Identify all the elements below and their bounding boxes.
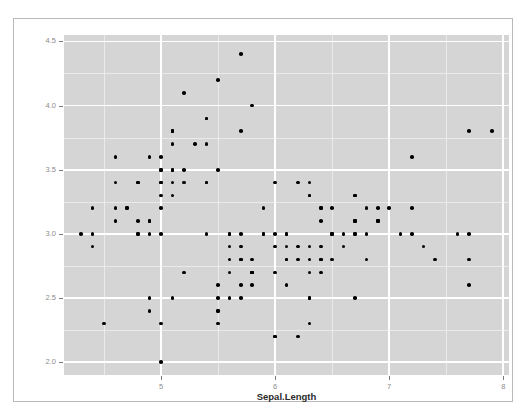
data-point: [159, 181, 163, 185]
data-point: [250, 104, 254, 108]
y-tick-mark: [59, 170, 63, 171]
data-point: [216, 309, 220, 313]
gridline-minor-horizontal: [64, 330, 509, 331]
data-point: [319, 258, 323, 262]
data-point: [182, 271, 186, 275]
gridline-major-horizontal: [64, 105, 509, 107]
data-point: [308, 322, 312, 326]
x-tick-label: 8: [483, 382, 523, 391]
x-tick-mark: [503, 376, 504, 380]
data-point: [250, 258, 254, 262]
data-point: [433, 258, 437, 262]
data-point: [285, 245, 289, 249]
data-point: [228, 245, 232, 249]
data-point: [182, 91, 186, 95]
data-point: [171, 181, 175, 185]
data-point: [365, 206, 369, 210]
x-tick-mark: [389, 376, 390, 380]
data-point: [148, 155, 152, 159]
data-point: [216, 296, 220, 300]
data-point: [205, 117, 209, 121]
y-tick-label: 3.0: [18, 229, 56, 238]
data-point: [296, 258, 300, 262]
data-point: [114, 155, 118, 159]
data-point: [239, 232, 243, 236]
data-point: [296, 335, 300, 339]
data-point: [467, 283, 471, 287]
y-tick-label: 2.0: [18, 357, 56, 366]
data-point: [171, 296, 175, 300]
data-point: [399, 232, 403, 236]
gridline-minor-horizontal: [64, 73, 509, 74]
data-point: [273, 181, 277, 185]
data-point: [273, 335, 277, 339]
data-point: [216, 322, 220, 326]
data-point: [91, 245, 95, 249]
gridline-minor-horizontal: [64, 266, 509, 267]
data-point: [114, 219, 118, 223]
plot-panel: [64, 35, 509, 375]
data-point: [410, 155, 414, 159]
data-point: [308, 258, 312, 262]
data-point: [159, 360, 163, 364]
data-point: [239, 258, 243, 262]
data-point: [171, 142, 175, 146]
gridline-major-vertical: [502, 35, 504, 375]
data-point: [467, 232, 471, 236]
data-point: [285, 283, 289, 287]
data-point: [159, 194, 163, 198]
data-point: [285, 232, 289, 236]
data-point: [148, 296, 152, 300]
gridline-minor-horizontal: [64, 202, 509, 203]
data-point: [239, 129, 243, 133]
data-point: [308, 245, 312, 249]
data-point: [205, 181, 209, 185]
data-point: [114, 206, 118, 210]
y-tick-mark: [59, 106, 63, 107]
y-tick-label: 3.5: [18, 165, 56, 174]
y-axis-title: Sepal.Width: [20, 0, 34, 19]
data-point: [273, 271, 277, 275]
data-point: [136, 181, 140, 185]
data-point: [159, 232, 163, 236]
data-point: [342, 245, 346, 249]
data-point: [228, 271, 232, 275]
data-point: [182, 181, 186, 185]
data-point: [159, 322, 163, 326]
data-point: [387, 206, 391, 210]
data-point: [250, 271, 254, 275]
data-point: [308, 194, 312, 198]
data-point: [285, 258, 289, 262]
gridline-minor-vertical: [446, 35, 447, 375]
data-point: [319, 219, 323, 223]
data-point: [171, 194, 175, 198]
data-point: [205, 142, 209, 146]
y-tick-mark: [59, 41, 63, 42]
data-point: [410, 206, 414, 210]
data-point: [228, 296, 232, 300]
data-point: [125, 206, 129, 210]
gridline-major-horizontal: [64, 41, 509, 43]
data-point: [159, 206, 163, 210]
data-point: [193, 142, 197, 146]
data-point: [239, 283, 243, 287]
y-tick-mark: [59, 362, 63, 363]
data-point: [216, 168, 220, 172]
data-point: [273, 232, 277, 236]
data-point: [148, 309, 152, 313]
clipped-caption-text: [0, 0, 527, 4]
data-point: [342, 232, 346, 236]
data-point: [136, 219, 140, 223]
data-point: [239, 52, 243, 56]
data-point: [467, 258, 471, 262]
data-point: [262, 232, 266, 236]
data-point: [239, 245, 243, 249]
data-point: [136, 232, 140, 236]
gridline-major-vertical: [274, 35, 276, 375]
data-point: [114, 181, 118, 185]
data-point: [159, 155, 163, 159]
data-point: [273, 245, 277, 249]
data-point: [353, 296, 357, 300]
screenshot-root: 2.02.53.03.54.04.5 5678 Sepal.Width Sepa…: [0, 0, 527, 416]
data-point: [159, 168, 163, 172]
